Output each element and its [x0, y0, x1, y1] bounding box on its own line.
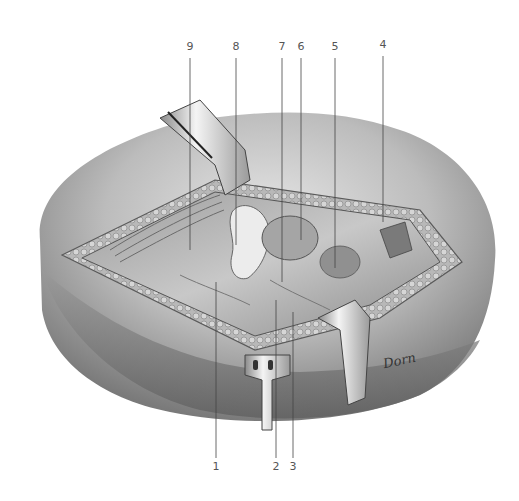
- callout-label-4: 4: [380, 38, 387, 51]
- callout-label-2: 2: [273, 460, 280, 473]
- callout-label-3: 3: [290, 460, 297, 473]
- callout-label-9: 9: [187, 40, 194, 53]
- callout-label-6: 6: [298, 40, 305, 53]
- surgical-illustration: 9 8 7 6 5 4 1 2 3 Dorn: [0, 0, 519, 501]
- callout-label-7: 7: [279, 40, 286, 53]
- callout-label-8: 8: [233, 40, 240, 53]
- callout-label-5: 5: [332, 40, 339, 53]
- illustration-canvas: [0, 0, 519, 501]
- callout-label-1: 1: [213, 460, 220, 473]
